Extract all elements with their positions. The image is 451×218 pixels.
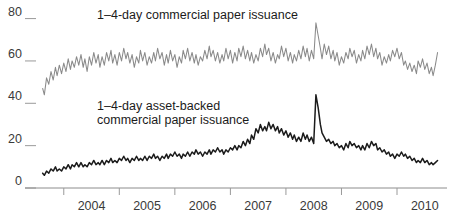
x-axis-group: 2004200520062007200820092010 [25,188,447,213]
commercial-paper-label: 1–4-day commercial paper issuance [97,8,298,22]
x-tick-label: 2008 [300,199,328,213]
annotation-line: 1–4-day asset-backed [97,99,220,113]
chart-container: 020406080 2004200520062007200820092010 1… [0,0,451,218]
line-chart: 020406080 2004200520062007200820092010 1… [0,0,451,218]
series-line-0 [43,23,438,95]
annotation-line: commercial paper issuance [97,113,249,127]
asset-backed-label: 1–4-day asset-backedcommercial paper iss… [97,99,249,127]
y-axis-group: 020406080 [8,5,36,188]
annotation-group: 1–4-day commercial paper issuance1–4-day… [97,8,298,127]
x-tick-label: 2004 [78,199,106,213]
x-tick-label: 2007 [244,199,272,213]
x-tick-label: 2005 [133,199,161,213]
annotation-line: 1–4-day commercial paper issuance [97,8,298,22]
y-tick-label: 20 [8,132,22,146]
x-tick-label: 2010 [411,199,439,213]
y-tick-label: 0 [15,174,22,188]
x-tick-label: 2009 [355,199,383,213]
y-tick-label: 60 [8,47,22,61]
y-tick-label: 80 [8,5,22,19]
y-tick-label: 40 [8,89,22,103]
x-tick-label: 2006 [189,199,217,213]
